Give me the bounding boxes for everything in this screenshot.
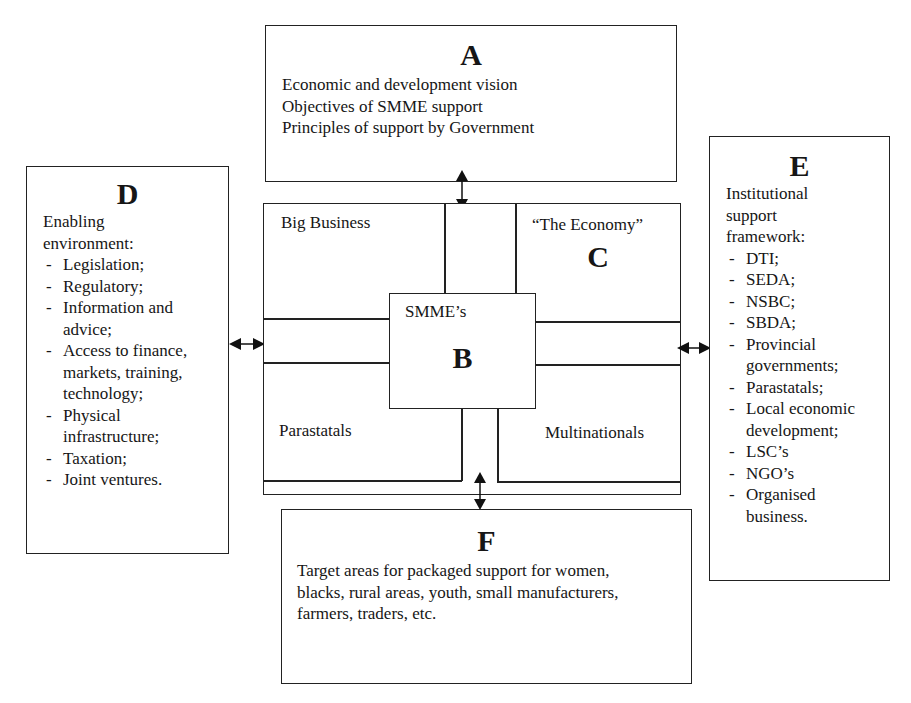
list-item: SEDA; <box>726 269 889 291</box>
box-a-letter: A <box>266 40 676 70</box>
list-item: DTI; <box>726 248 889 270</box>
divider <box>263 318 390 320</box>
list-item: Provincialgovernments; <box>726 334 889 377</box>
list-item: Parastatals; <box>726 377 889 399</box>
box-f-letter: F <box>282 526 691 556</box>
c-f-arrow-icon <box>470 472 490 510</box>
box-b-smmes: SMME’s B <box>389 293 536 409</box>
box-a-line-objectives: Objectives of SMME support <box>282 96 676 118</box>
list-item: Physicalinfrastructure; <box>43 405 228 448</box>
divider <box>497 409 499 482</box>
box-e-institutional-support: E Institutional support framework: DTI; … <box>709 136 890 581</box>
list-item: SBDA; <box>726 312 889 334</box>
list-item: Access to finance,markets, training,tech… <box>43 340 228 405</box>
box-e-list: DTI; SEDA; NSBC; SBDA; Provincialgovernm… <box>726 248 889 528</box>
box-b-title: SMME’s <box>405 301 535 323</box>
box-c-title: “The Economy” <box>532 214 643 236</box>
box-f-line-1: Target areas for packaged support for wo… <box>297 560 691 582</box>
divider <box>535 364 681 366</box>
divider <box>497 481 681 483</box>
divider <box>515 203 517 293</box>
box-e-heading-1: Institutional <box>726 183 889 205</box>
c-e-arrow-icon <box>677 341 711 355</box>
quadrant-parastatals: Parastatals <box>279 420 352 442</box>
box-b-letter: B <box>390 343 535 373</box>
list-item: Legislation; <box>43 254 228 276</box>
list-item: Local economicdevelopment; <box>726 398 889 441</box>
box-f-line-3: farmers, traders, etc. <box>297 603 691 625</box>
list-item: NSBC; <box>726 291 889 313</box>
box-e-heading-2: support <box>726 205 889 227</box>
divider <box>461 408 463 481</box>
box-c-letter: C <box>578 242 618 272</box>
box-d-heading-1: Enabling <box>43 211 228 233</box>
box-a-line-principles: Principles of support by Government <box>282 117 676 139</box>
list-item: Taxation; <box>43 448 228 470</box>
box-d-enabling-environment: D Enabling environment: Legislation; Reg… <box>26 166 229 554</box>
quadrant-big-business: Big Business <box>281 212 370 234</box>
box-f-target-areas: F Target areas for packaged support for … <box>281 509 692 684</box>
list-item: Joint ventures. <box>43 469 228 491</box>
box-d-list: Legislation; Regulatory; Information and… <box>43 254 228 491</box>
list-item: LSC’s <box>726 441 889 463</box>
box-d-heading-2: environment: <box>43 233 228 255</box>
box-d-letter: D <box>27 179 228 209</box>
d-c-arrow-icon <box>229 337 265 351</box>
divider <box>444 203 446 293</box>
list-item: Organisedbusiness. <box>726 484 889 527</box>
box-a-policy-vision: A Economic and development vision Object… <box>265 25 677 182</box>
list-item: NGO’s <box>726 463 889 485</box>
divider <box>263 480 462 482</box>
divider <box>535 321 681 323</box>
box-f-line-2: blacks, rural areas, youth, small manufa… <box>297 582 691 604</box>
divider <box>263 362 390 364</box>
quadrant-multinationals: Multinationals <box>545 422 644 444</box>
list-item: Information andadvice; <box>43 297 228 340</box>
box-e-heading-3: framework: <box>726 226 889 248</box>
box-e-letter: E <box>710 151 889 181</box>
list-item: Regulatory; <box>43 276 228 298</box>
box-a-line-vision: Economic and development vision <box>282 74 676 96</box>
